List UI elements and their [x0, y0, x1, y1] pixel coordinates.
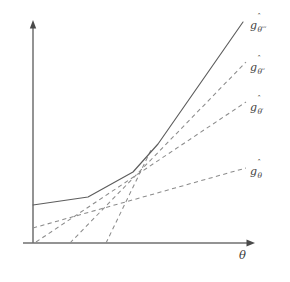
curve-label-base: g [250, 165, 257, 178]
curve-label-g-theta-hat-prime: gˆθ′ [250, 98, 263, 114]
curve-label-base: g [250, 19, 257, 32]
curve-label-subscript-wrap: ˆθ [257, 98, 262, 114]
curve-label-g-theta-hat-double-prime: gˆθ′′ [250, 58, 265, 74]
hat-accent-icon: ˆ [257, 13, 261, 21]
curve-label-base: g [250, 61, 257, 74]
hat-accent-icon: ˆ [257, 55, 261, 63]
curve-label-g-theta-hat: gˆθ [250, 162, 262, 178]
figure-root: gˆθ′′′ gˆθ′′ gˆθ′ gˆθ θ [0, 0, 290, 282]
hat-accent-icon: ˆ [257, 95, 261, 103]
theta-axis-arrowhead [247, 240, 256, 247]
curve-label-subscript: θ [257, 171, 262, 180]
cut-line-g-theta-hat-prime [36, 102, 246, 242]
curve-label-primes: ′ [262, 107, 264, 116]
curve-label-subscript-wrap: ˆθ [257, 58, 262, 74]
theta-axis-label: θ [239, 250, 246, 262]
plot-canvas [0, 0, 290, 282]
cut-line-g-theta-hat-double-prime [70, 62, 246, 243]
curve-label-base: g [250, 101, 257, 114]
curve-label-primes: ′′′ [262, 25, 267, 34]
hat-accent-icon: ˆ [257, 159, 261, 167]
curve-label-subscript-wrap: ˆθ [257, 16, 262, 32]
curve-label-subscript-wrap: ˆθ [257, 162, 262, 178]
curve-label-primes: ′′ [262, 67, 265, 76]
cut-line-g-theta-hat [33, 168, 246, 228]
curve-label-g-theta-hat-triple-prime: gˆθ′′′ [250, 16, 266, 32]
value-axis-arrowhead [30, 20, 36, 29]
